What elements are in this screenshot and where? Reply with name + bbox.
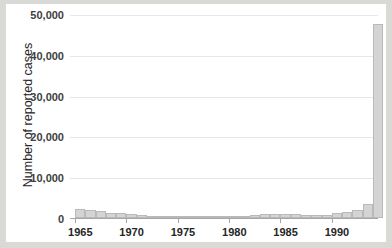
- x-tick-mark: [229, 219, 230, 223]
- chart-figure: Number of reported cases 010,00020,00030…: [6, 4, 386, 242]
- bar: [363, 204, 373, 218]
- x-tick-label: 1975: [171, 226, 195, 238]
- bar: [373, 24, 383, 218]
- gridline: [70, 137, 378, 138]
- x-tick-label: 1965: [68, 226, 92, 238]
- y-tick-label: 50,000: [30, 9, 64, 21]
- x-tick-mark: [126, 219, 127, 223]
- gridline: [70, 56, 378, 57]
- y-tick-label: 10,000: [30, 172, 64, 184]
- y-tick-label: 40,000: [30, 50, 64, 62]
- x-tick-mark: [280, 219, 281, 223]
- plot-area: 010,00020,00030,00040,00050,000 19651970…: [70, 15, 378, 219]
- x-tick-label: 1985: [273, 226, 297, 238]
- bar: [85, 210, 95, 218]
- y-tick-label: 20,000: [30, 131, 64, 143]
- x-tick-label: 1970: [119, 226, 143, 238]
- gridline: [70, 178, 378, 179]
- x-tick-label: 1990: [325, 226, 349, 238]
- x-tick-mark: [178, 219, 179, 223]
- bar: [75, 209, 85, 218]
- bar: [352, 210, 362, 218]
- x-tick-mark: [75, 219, 76, 223]
- y-tick-label: 30,000: [30, 91, 64, 103]
- y-tick-label: 0: [58, 213, 64, 225]
- gridline: [70, 15, 378, 16]
- x-tick-mark: [332, 219, 333, 223]
- x-tick-label: 1980: [222, 226, 246, 238]
- gridline: [70, 97, 378, 98]
